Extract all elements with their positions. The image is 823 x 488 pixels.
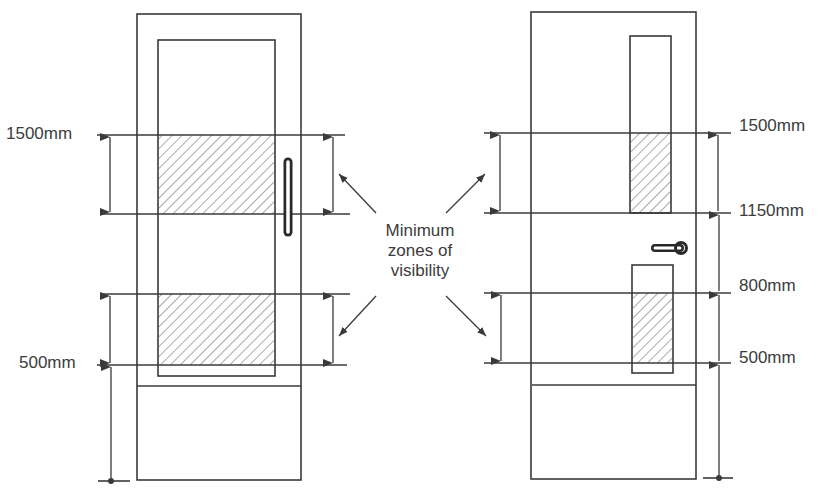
right-500mm-label: 500mm <box>739 349 796 366</box>
center-label-line-2: zones of <box>368 241 472 261</box>
lever-handle-icon <box>655 243 687 254</box>
left-door <box>97 14 350 484</box>
left-1500mm-label: 1500mm <box>6 125 72 142</box>
right-800mm-label: 800mm <box>739 277 796 294</box>
right-lower-visibility-zone <box>633 293 673 363</box>
left-door-frame <box>137 14 301 480</box>
center-label-line-1: Minimum <box>368 221 472 241</box>
left-500mm-label: 500mm <box>19 354 76 371</box>
center-label-line-3: visibility <box>368 261 472 281</box>
minimum-zones-label: Minimum zones of visibility <box>368 221 472 281</box>
right-1500mm-label: 1500mm <box>739 117 805 134</box>
right-door <box>484 12 733 481</box>
left-upper-visibility-zone <box>159 135 275 214</box>
left-lower-visibility-zone <box>159 294 275 365</box>
right-1150mm-label: 1150mm <box>739 202 804 219</box>
right-upper-visibility-zone <box>631 133 671 213</box>
